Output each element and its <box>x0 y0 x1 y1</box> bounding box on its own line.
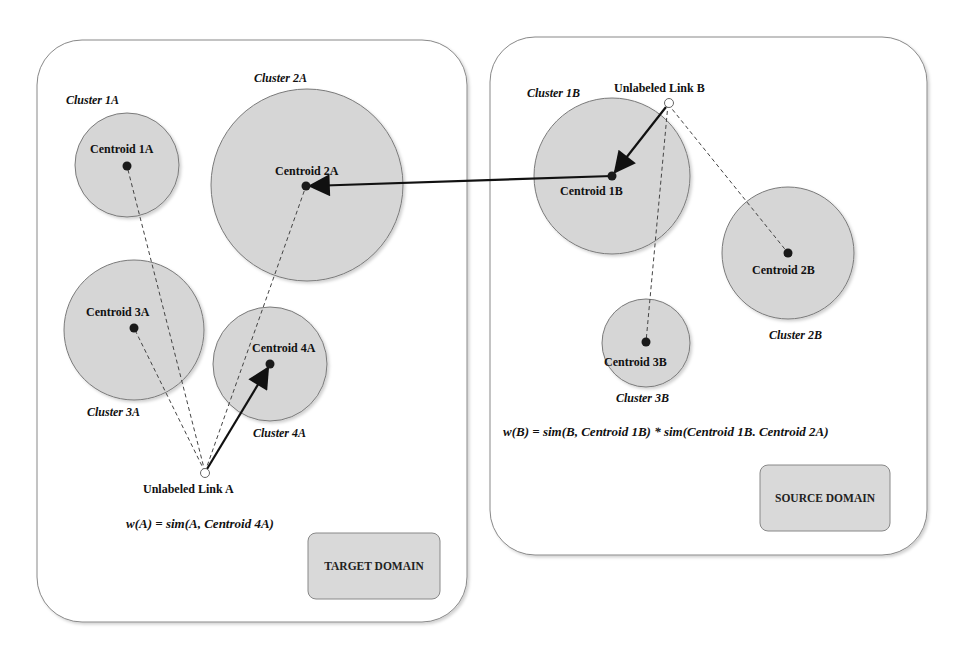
centroid-2a-dot <box>302 182 311 191</box>
domain-adaptation-diagram: Cluster 1A Cluster 2A Cluster 3A Cluster… <box>0 0 961 657</box>
centroid-3b-dot <box>642 338 651 347</box>
target-domain-label: TARGET DOMAIN <box>324 560 424 572</box>
source-domain-label: SOURCE DOMAIN <box>775 492 876 504</box>
centroid-3a-label: Centroid 3A <box>86 305 150 319</box>
cluster-1a-label: Cluster 1A <box>66 93 119 107</box>
centroid-3b-label: Centroid 3B <box>604 355 667 369</box>
centroid-2b-dot <box>784 249 793 258</box>
target-weight-formula: w(A) = sim(A, Centroid 4A) <box>126 516 274 531</box>
centroid-2b-label: Centroid 2B <box>752 263 815 277</box>
centroid-2a-label: Centroid 2A <box>275 164 339 178</box>
centroid-1a-dot <box>123 162 132 171</box>
unlabeled-link-a-point <box>201 469 210 478</box>
centroid-4a-label: Centroid 4A <box>252 341 316 355</box>
unlabeled-link-a-label: Unlabeled Link A <box>143 482 234 496</box>
cluster-2b-label: Cluster 2B <box>769 328 822 342</box>
unlabeled-link-b-point <box>665 99 674 108</box>
cluster-3b-label: Cluster 3B <box>616 391 669 405</box>
cluster-2a-label: Cluster 2A <box>254 71 307 85</box>
cluster-4a-label: Cluster 4A <box>253 426 306 440</box>
centroid-4a-dot <box>266 360 275 369</box>
unlabeled-link-b-label: Unlabeled Link B <box>614 81 705 95</box>
centroid-1a-label: Centroid 1A <box>90 142 154 156</box>
source-weight-formula: w(B) = sim(B, Centroid 1B) * sim(Centroi… <box>503 424 829 439</box>
centroid-1b-label: Centroid 1B <box>560 184 623 198</box>
cluster-3a-label: Cluster 3A <box>87 405 140 419</box>
cluster-1b-label: Cluster 1B <box>527 86 580 100</box>
centroid-1b-dot <box>608 172 617 181</box>
centroid-3a-dot <box>130 324 139 333</box>
